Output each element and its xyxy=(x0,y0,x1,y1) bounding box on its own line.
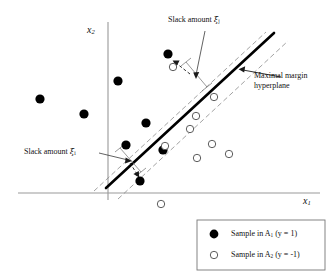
legend-item-a1-text-pre: Sample in A xyxy=(231,229,271,238)
data-point-a1 xyxy=(79,109,88,118)
data-point-a2 xyxy=(225,150,232,157)
data-point-a1 xyxy=(113,76,122,85)
data-point-a1 xyxy=(163,49,172,58)
data-point-a2 xyxy=(186,125,193,132)
data-point-a2 xyxy=(169,63,176,70)
legend-item-a1-label: Sample in A1 (y = 1) xyxy=(231,229,297,238)
legend-box xyxy=(197,220,325,270)
legend-marker-a1 xyxy=(210,230,219,239)
slack-j-label-text: Slack amount xyxy=(168,15,214,24)
legend-item-a1-text-post: (y = 1) xyxy=(273,229,297,238)
slack-j-leader-line xyxy=(196,31,205,75)
class-a2-points-group xyxy=(157,63,232,207)
svm-figure: x2 x1 Slack amount ξj Slack amount ξi Ma… xyxy=(0,0,333,280)
hyperplane-label-line1: Maximal margin xyxy=(254,71,307,80)
legend-item-a2-text-post: (y = -1) xyxy=(273,250,300,259)
slack-j-measure-cap-a xyxy=(181,58,191,66)
y-axis-label: x2 xyxy=(87,24,95,36)
legend-item-a2-text-pre: Sample in A xyxy=(231,250,271,259)
data-point-a2 xyxy=(208,140,215,147)
slack-j-label-sub: j xyxy=(218,18,219,24)
slack-i-label: Slack amount ξi xyxy=(24,147,76,156)
data-point-a1 xyxy=(135,176,144,185)
hyperplane-label: Maximal margin hyperplane xyxy=(254,71,330,91)
slack-j-group xyxy=(173,31,212,91)
slack-j-measure-cap-b xyxy=(202,83,212,91)
x-axis-label-sub: 1 xyxy=(307,199,310,206)
data-point-a2 xyxy=(193,154,200,161)
data-point-a1 xyxy=(121,140,130,149)
x-axis-label: x1 xyxy=(303,195,311,207)
data-point-a2 xyxy=(210,93,217,100)
legend-item-a2-label: Sample in A2 (y = -1) xyxy=(231,250,300,259)
hyperplane-label-line2: hyperplane xyxy=(254,81,290,90)
data-point-a2 xyxy=(161,142,168,149)
hyperplane-callout-arrowhead xyxy=(239,66,246,72)
legend-marker-a2 xyxy=(210,251,217,258)
slack-j-label: Slack amount ξj xyxy=(168,15,220,24)
slack-i-dashed-arrowhead xyxy=(133,171,139,178)
axes-group xyxy=(18,22,320,200)
slack-i-label-sub: i xyxy=(74,150,75,156)
legend-box-group xyxy=(197,220,325,270)
data-point-a2 xyxy=(192,112,199,119)
y-axis-label-sub: 2 xyxy=(91,28,94,35)
slack-i-label-text: Slack amount xyxy=(24,147,70,156)
slack-j-leader-arrowhead xyxy=(193,72,199,79)
data-point-a2 xyxy=(157,200,164,207)
slack-i-dashed-arrow xyxy=(130,163,137,174)
data-point-a1 xyxy=(35,94,44,103)
data-point-a1 xyxy=(141,118,150,127)
margin-upper-line xyxy=(94,32,266,191)
slack-i-leader-line xyxy=(99,153,128,160)
class-a1-points-group xyxy=(35,49,172,185)
